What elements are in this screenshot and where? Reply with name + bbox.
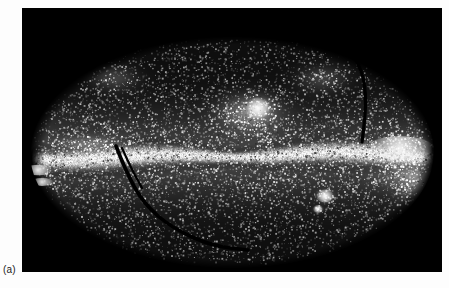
all-sky-map-panel bbox=[22, 8, 442, 272]
figure-container: (a) bbox=[0, 0, 449, 288]
figure-panel-label: (a) bbox=[3, 264, 16, 276]
all-sky-map-canvas bbox=[22, 8, 442, 272]
